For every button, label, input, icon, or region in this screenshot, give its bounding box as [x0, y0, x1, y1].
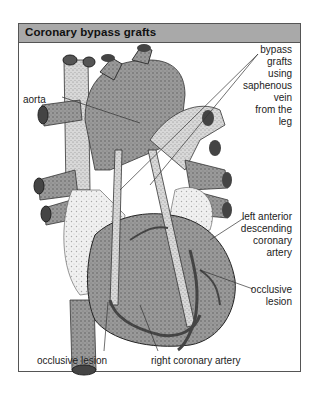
label-aorta: aorta: [23, 94, 46, 106]
label-line: artery: [220, 247, 292, 259]
label-line: using: [220, 68, 292, 80]
label-line: lesion: [220, 296, 292, 308]
label-line: bypass: [220, 44, 292, 56]
label-lad: left anterior descending coronary artery: [220, 211, 292, 259]
label-line: coronary: [220, 235, 292, 247]
label-line: vein: [220, 92, 292, 104]
label-line: saphenous: [220, 80, 292, 92]
label-line: occlusive: [220, 284, 292, 296]
label-line: grafts: [220, 56, 292, 68]
label-occlusive-lesion-bottom: occlusive lesion: [37, 355, 107, 367]
label-line: left anterior: [220, 211, 292, 223]
label-line: descending: [220, 223, 292, 235]
label-line: leg: [220, 116, 292, 128]
label-bypass-grafts: bypass grafts using saphenous vein from …: [220, 44, 292, 128]
label-line: from the: [220, 104, 292, 116]
label-right-coronary-artery: right coronary artery: [151, 355, 240, 367]
label-occlusive-lesion-right: occlusive lesion: [220, 284, 292, 308]
